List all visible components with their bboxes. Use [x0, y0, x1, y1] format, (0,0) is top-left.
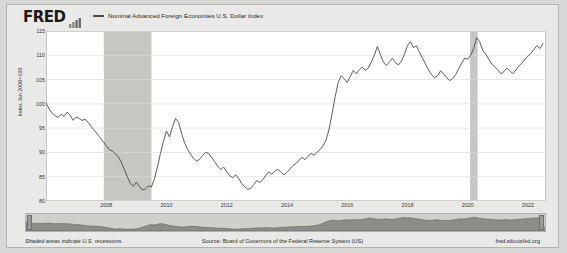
- legend-swatch-icon: [93, 15, 104, 17]
- x-axis-labels: 20082010201220142016201820202022: [46, 202, 546, 212]
- fred-chart-screenshot: FRED Nominal Advanced Foreign Economies …: [0, 0, 567, 253]
- chart-legend[interactable]: Nominal Advanced Foreign Economies U.S. …: [93, 12, 263, 19]
- x-axis-tick-label: 2020: [462, 202, 474, 208]
- navigator-series-area: [26, 217, 545, 231]
- y-axis-tick-label: 95: [39, 125, 45, 131]
- y-axis-tick-label: 80: [39, 198, 45, 204]
- x-axis-tick-label: 2008: [100, 202, 112, 208]
- y-axis-tick-label: 110: [36, 52, 45, 58]
- recession-note: Shaded areas indicate U.S. recessions.: [25, 238, 123, 244]
- x-axis-tick-label: 2010: [160, 202, 172, 208]
- fred-logo[interactable]: FRED: [23, 10, 66, 25]
- x-axis-tick-label: 2018: [401, 202, 413, 208]
- y-axis-tick-label: 100: [36, 101, 45, 107]
- legend-series-label: Nominal Advanced Foreign Economies U.S. …: [108, 12, 263, 19]
- y-axis-tick-label: 115: [36, 28, 45, 34]
- series-line-chart: [46, 31, 546, 201]
- x-axis-tick-label: 2022: [522, 202, 534, 208]
- y-axis-tick-label: 90: [39, 149, 45, 155]
- x-axis-tick-label: 2012: [221, 202, 233, 208]
- chart-footer: Shaded areas indicate U.S. recessions. S…: [7, 236, 558, 249]
- source-note: Source: Board of Governors of the Federa…: [202, 238, 363, 244]
- y-axis-tick-label: 105: [36, 77, 45, 83]
- recession-band: [470, 31, 478, 201]
- range-start-handle[interactable]: [27, 215, 32, 230]
- y-axis-labels: 11511010510095908580: [25, 31, 45, 201]
- plot-area[interactable]: [46, 31, 546, 201]
- recession-band: [104, 31, 152, 201]
- y-axis-title: Index Jan 2006=100: [17, 49, 23, 135]
- y-axis-tick-label: 85: [39, 174, 45, 180]
- chart-header: FRED Nominal Advanced Foreign Economies …: [7, 5, 558, 29]
- chart-frame: FRED Nominal Advanced Foreign Economies …: [6, 4, 559, 248]
- navigator-area-chart: [26, 214, 545, 231]
- range-end-handle[interactable]: [539, 215, 544, 230]
- range-navigator[interactable]: [25, 213, 546, 232]
- bar-chart-mark-icon: [69, 14, 81, 24]
- fred-url[interactable]: fred.stlouisfed.org: [496, 238, 540, 244]
- x-axis-tick-label: 2014: [281, 202, 293, 208]
- x-axis-tick-label: 2016: [341, 202, 353, 208]
